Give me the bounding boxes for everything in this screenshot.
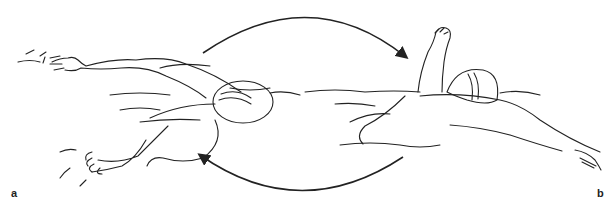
panel-label-b: b [597,187,604,199]
top-cycle-arrow-icon [203,17,406,57]
bottom-cycle-arrow-icon [200,155,403,191]
panel-label-a: a [11,187,17,199]
swim-stroke-diagram: a b [0,0,615,210]
swimmer-a-figure [18,50,300,186]
swimmer-b-figure [305,28,601,171]
illustration-canvas [0,0,615,210]
